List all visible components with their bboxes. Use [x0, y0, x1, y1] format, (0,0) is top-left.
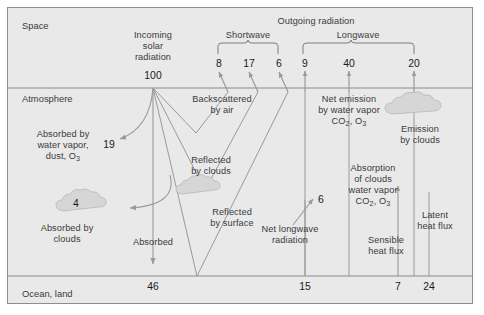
- cloud-absorbed: [56, 189, 106, 211]
- value-net-longwave-surface: 15: [299, 281, 311, 292]
- value-sensible: 7: [395, 281, 401, 292]
- incoming-solar-value: 100: [144, 70, 161, 81]
- category-brackets: [218, 40, 414, 54]
- label-absorption-line4: CO2, O3: [356, 196, 391, 209]
- radiation-budget-diagram: Space Atmosphere Ocean, land Outgoing ra…: [0, 0, 484, 315]
- label-latent-line2: heat flux: [417, 221, 453, 232]
- absorption-arrows: [120, 88, 171, 208]
- label-absorbed-vapor-line2: water vapor,: [37, 140, 88, 151]
- cloud-emission: [385, 92, 441, 114]
- value-reflected-clouds: 17: [243, 58, 255, 69]
- label-absorbed-clouds-line2: clouds: [53, 234, 80, 245]
- incoming-solar-line1: Incoming: [134, 30, 172, 41]
- incoming-solar-line3: radiation: [135, 52, 171, 63]
- label-absorption-line3: water vapor: [348, 185, 397, 196]
- label-backscattered-line1: Backscattered: [192, 94, 252, 105]
- label-net-longwave-line1: Net longwave: [262, 224, 319, 235]
- label-reflected-surface-line2: by surface: [210, 218, 253, 229]
- label-latent-line1: Latent: [422, 210, 448, 221]
- header-outgoing-radiation: Outgoing radiation: [278, 16, 355, 27]
- value-absorbed-clouds: 4: [73, 198, 79, 209]
- zone-label-surface: Ocean, land: [22, 288, 73, 299]
- outgoing-arrows: [219, 71, 414, 92]
- label-net-longwave-line2: radiation: [272, 235, 308, 246]
- label-net-emission-line3: CO2, O3: [332, 116, 367, 129]
- label-reflected-clouds-line2: by clouds: [191, 166, 231, 177]
- value-net-emission-gases: 40: [343, 58, 355, 69]
- zone-label-atmosphere: Atmosphere: [22, 93, 73, 104]
- label-sensible-line1: Sensible: [368, 235, 404, 246]
- zone-label-space: Space: [22, 20, 49, 31]
- incoming-solar-line2: solar: [143, 41, 163, 52]
- label-emission-clouds-line1: Emission: [401, 124, 439, 135]
- value-latent: 24: [423, 281, 435, 292]
- value-absorbed-vapor: 19: [103, 139, 115, 150]
- value-emission-clouds: 20: [408, 58, 420, 69]
- header-shortwave: Shortwave: [226, 30, 270, 41]
- net-longwave-arrow: [293, 199, 313, 225]
- label-net-emission-line1: Net emission: [322, 94, 376, 105]
- label-absorbed-vapor-line3: dust, O3: [46, 151, 80, 164]
- value-absorbed-surface: 46: [147, 281, 159, 292]
- label-reflected-clouds-line1: Reflected: [191, 155, 231, 166]
- value-backscattered: 8: [216, 58, 222, 69]
- header-longwave: Longwave: [337, 30, 380, 41]
- label-absorbed-clouds-line1: Absorbed by: [41, 223, 94, 234]
- label-backscattered-line2: by air: [210, 105, 233, 116]
- label-absorption-line2: of clouds: [354, 174, 392, 185]
- value-net-emission-atmos: 9: [302, 58, 308, 69]
- cloud-reflected: [176, 175, 220, 194]
- value-reflected-surface: 6: [276, 58, 282, 69]
- value-net-longwave: 6: [318, 194, 324, 205]
- label-absorbed-vapor-line1: Absorbed by: [37, 129, 90, 140]
- label-sensible-line2: heat flux: [368, 246, 404, 257]
- label-net-emission-line2: by water vapor: [318, 105, 380, 116]
- label-emission-clouds-line2: by clouds: [400, 135, 440, 146]
- label-reflected-surface-line1: Reflected: [212, 207, 252, 218]
- label-absorption-line1: Absorption: [351, 163, 396, 174]
- label-absorbed: Absorbed: [133, 237, 173, 248]
